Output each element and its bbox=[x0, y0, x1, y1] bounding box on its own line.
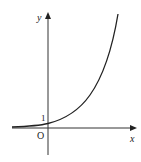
x-axis-label: x bbox=[130, 134, 134, 144]
x-axis-arrow-icon bbox=[130, 125, 137, 131]
origin-label: O bbox=[37, 131, 44, 141]
y-intercept-label: 1 bbox=[41, 113, 46, 123]
y-axis-arrow-icon bbox=[45, 12, 51, 19]
exponential-graph: y x O 1 bbox=[0, 0, 141, 162]
plot-area bbox=[0, 0, 141, 162]
y-axis-label: y bbox=[37, 13, 41, 23]
exponential-curve bbox=[12, 14, 118, 127]
